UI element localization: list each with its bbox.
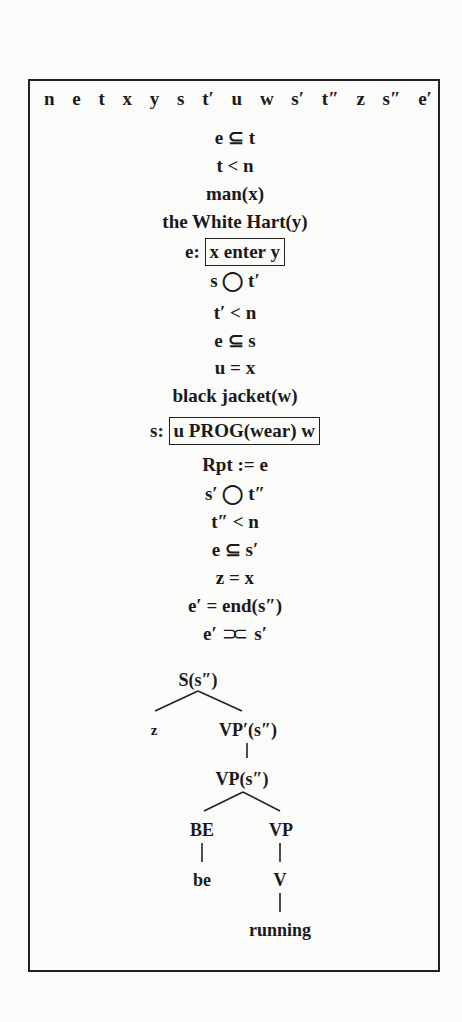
tree-node-vp: VP(s″)	[216, 769, 269, 789]
tree-node-v: V	[274, 870, 287, 890]
tree-node-vp-prime: VP′(s″)	[219, 720, 277, 740]
tree-leaf-be: be	[193, 870, 211, 890]
tree-node-vp-inner: VP	[269, 820, 293, 840]
tree-node-be: BE	[190, 820, 214, 840]
tree-branches	[0, 0, 462, 1022]
tree-leaf-running: running	[249, 920, 311, 940]
tree-node-s: S(s″)	[179, 670, 218, 690]
tree-node-z: z	[151, 720, 158, 740]
